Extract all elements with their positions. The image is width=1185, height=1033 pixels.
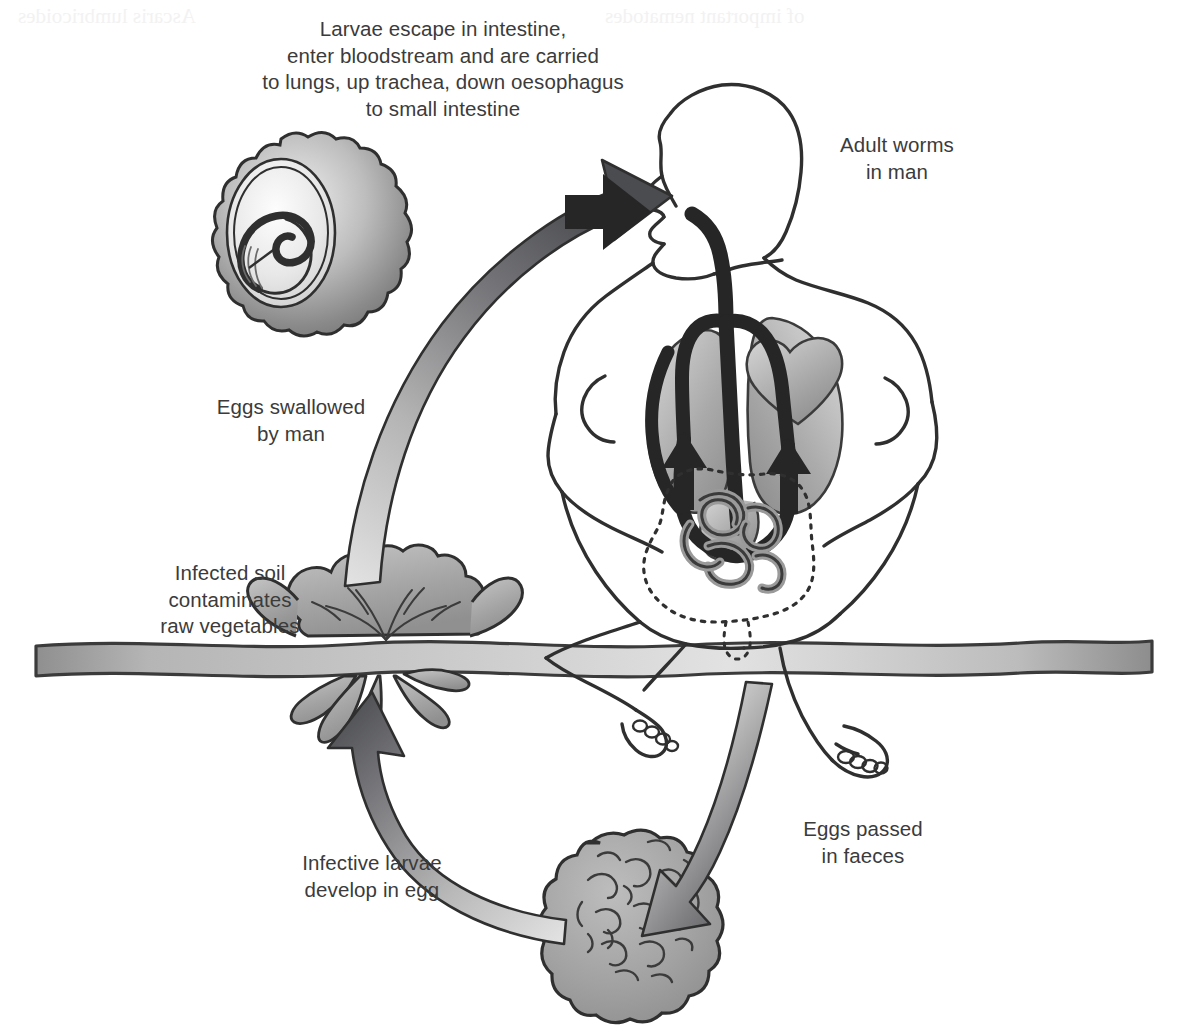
diagram-canvas: Ascaris lumbricoides of important nemato… [0, 0, 1185, 1033]
label-eggs-swallowed: Eggs swallowed by man [196, 394, 386, 447]
label-infective-larvae: Infective larvae develop in egg [272, 850, 472, 903]
life-cycle-illustration [0, 0, 1185, 1033]
label-adult-worms: Adult worms in man [812, 132, 982, 185]
label-larvae-escape: Larvae escape in intestine, enter bloods… [238, 16, 648, 123]
soil-ground-band [36, 641, 1152, 677]
arrow-egg-to-vegetables [328, 692, 566, 944]
embryonated-egg-illustration [212, 132, 411, 336]
label-eggs-passed: Eggs passed in faeces [788, 816, 938, 869]
label-infected-soil: Infected soil contaminates raw vegetable… [140, 560, 320, 640]
